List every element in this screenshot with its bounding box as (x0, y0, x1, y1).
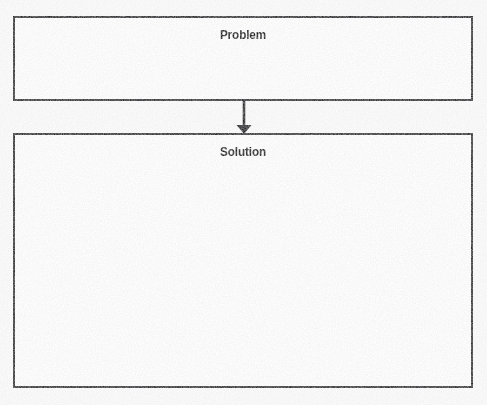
solution-box[interactable]: Solution (13, 133, 473, 388)
problem-box[interactable]: Problem (13, 16, 473, 101)
graphic-organizer-canvas: Problem Solution (0, 0, 487, 405)
problem-box-label: Problem (38, 27, 448, 42)
arrow-head (237, 125, 252, 134)
problem-to-solution-arrow-icon (228, 99, 260, 135)
solution-box-label: Solution (38, 144, 448, 159)
